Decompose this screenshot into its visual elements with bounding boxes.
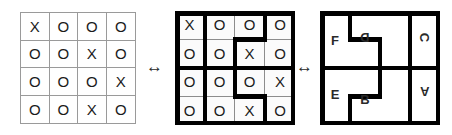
letter-glyph: B: [360, 92, 369, 107]
grid-cell: O: [21, 96, 50, 124]
double-arrow-icon: ↔: [296, 58, 313, 75]
region-label-d: D: [350, 23, 380, 51]
grid-cell: O: [78, 68, 107, 96]
grid-cell: X: [235, 40, 265, 69]
letter-glyph: D: [360, 30, 369, 45]
grid-cell: O: [50, 68, 79, 96]
grid-cell: O: [107, 96, 136, 124]
grid-cell: O: [107, 13, 136, 41]
grid-cell: O: [107, 41, 136, 69]
grid-cell: O: [205, 97, 235, 126]
grid-cell: O: [205, 68, 235, 97]
grid-cell: X: [21, 13, 50, 41]
plain-symbol-grid: X O O O O O X O O O O X O O X O: [20, 12, 136, 124]
grid-cell: O: [205, 40, 235, 69]
grid-cell: X: [265, 68, 295, 97]
double-arrow-icon: ↔: [146, 58, 163, 75]
grid-cell: O: [265, 97, 295, 126]
plain-grid-cells: X O O O O O X O O O O X O O X O: [21, 13, 135, 123]
grid-cell: X: [175, 11, 205, 40]
grid-cell: O: [21, 68, 50, 96]
grid-cell: O: [265, 11, 295, 40]
grid-cell: O: [175, 40, 205, 69]
grid-cell: O: [50, 13, 79, 41]
region-label-e: E: [320, 73, 350, 115]
region-label-b: B: [350, 85, 380, 113]
grid-cell: O: [175, 68, 205, 97]
region-label-f: F: [320, 19, 350, 61]
letter-glyph: F: [331, 33, 339, 48]
grid-cell: O: [265, 40, 295, 69]
lettered-region-grid: F D C E B A: [320, 11, 440, 125]
grid-cell: O: [235, 68, 265, 97]
grid-cell: O: [235, 11, 265, 40]
letter-glyph: E: [331, 87, 340, 102]
grid-cell: O: [50, 41, 79, 69]
letter-glyph: C: [417, 32, 432, 41]
grid-cell: X: [78, 41, 107, 69]
grid-cell: O: [78, 13, 107, 41]
letter-glyph: A: [420, 84, 429, 99]
walled-symbol-grid: X O O O O O X O O O O X O O X O: [175, 11, 295, 125]
grid-cell: O: [205, 11, 235, 40]
grid-cell: X: [107, 68, 136, 96]
grid-cell: O: [21, 41, 50, 69]
grid-cell: O: [175, 97, 205, 126]
walled-grid-cells: X O O O O O X O O O O X O O X O: [175, 11, 295, 125]
region-label-a: A: [410, 77, 440, 105]
grid-cell: X: [235, 97, 265, 126]
region-label-c: C: [410, 23, 440, 51]
figure-container: X O O O O O X O O O O X O O X O ↔ X O O …: [0, 0, 452, 135]
grid-cell: X: [78, 96, 107, 124]
grid-cell: O: [50, 96, 79, 124]
